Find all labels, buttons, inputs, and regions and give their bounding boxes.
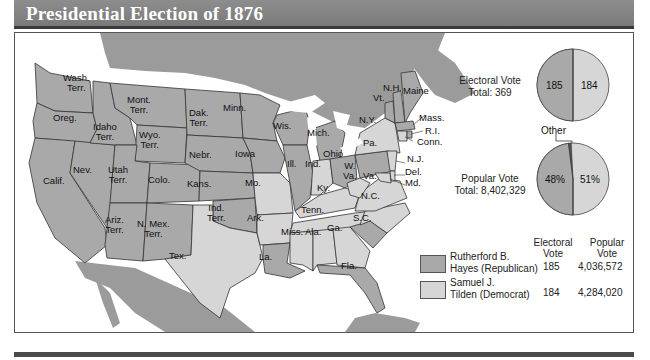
label-sc: S.C. [353,213,371,223]
legend-hayes-electoral: 185 [543,261,560,272]
state-mass [395,121,415,131]
state-conn [397,131,407,141]
legend-hayes-popular: 4,036,572 [578,261,623,272]
label-mo: Mo. [245,178,261,188]
legend-hayes-name: Rutherford B.Hayes (Republican) [450,251,538,275]
label-oreg: Oreg. [53,113,77,123]
label-tenn: Tenn. [301,205,324,215]
legend-tilden-name: Samuel J.Tilden (Democrat) [450,277,530,301]
label-mont: Mont.Terr. [127,95,151,115]
label-ark: Ark. [247,213,264,223]
label-mich: Mich. [307,128,330,138]
state-ri [407,131,412,138]
label-pa: Pa. [363,138,377,148]
state-minn [240,93,280,141]
label-ky: Ky. [317,183,330,193]
label-la: La. [259,252,272,262]
page-title: Presidential Election of 1876 [14,0,634,25]
label-iowa: Iowa [235,149,255,159]
label-wash: Wash.Terr. [63,73,90,93]
state-fla [317,265,385,313]
label-ri: R.I. [425,126,440,136]
label-del: Del. [405,167,422,177]
label-ga: Ga. [327,223,342,233]
label-nh: N.H. [383,83,402,93]
label-mass: Mass. [419,113,444,123]
label-calif: Calif. [43,176,65,186]
label-colo: Colo. [148,175,170,185]
label-ohio: Ohio [323,149,343,159]
electoral-vote-label: Electoral VoteTotal: 369 [445,75,535,99]
label-tex: Tex. [169,251,186,261]
label-wva: W.Va. [343,161,357,181]
label-idaho: IdahoTerr. [93,122,117,142]
label-ind-terr: Ind.Terr. [207,203,225,223]
label-nmex: N. Mex.Terr. [137,219,170,239]
label-ill: Ill. [287,159,297,169]
bottom-rule [14,352,634,357]
label-kans: Kans. [187,179,211,189]
state-miss [290,231,313,271]
map-frame: Wash.Terr. Oreg. Calif. Nev. IdahoTerr. … [14,32,634,333]
cuba-region [345,313,420,332]
label-nc: N.C. [361,191,380,201]
title-bar: Presidential Election of 1876 [14,0,634,29]
label-va: Va. [363,171,377,181]
label-utah: UtahTerr. [108,165,128,185]
label-wis: Wis. [273,121,291,131]
label-dak: Dak.Terr. [189,108,209,128]
label-ala: Ala. [305,227,321,237]
popular-hayes-value: 48% [545,174,565,185]
legend-tilden-popular: 4,284,020 [578,287,623,298]
label-conn: Conn. [417,137,442,147]
electoral-hayes-value: 185 [546,80,563,91]
popular-tilden-value: 51% [580,174,600,185]
label-nebr: Nebr. [189,150,212,160]
popular-vote-label: Popular VoteTotal: 8,402,329 [435,173,545,197]
label-ny: N.Y. [359,115,376,125]
legend-swatch-republican [420,255,446,273]
label-miss: Miss. [281,227,303,237]
legend-swatch-democrat [420,281,446,299]
label-nj: N.J. [407,154,424,164]
electoral-tilden-value: 184 [581,80,598,91]
legend-popular-header: PopularVote [582,237,632,259]
label-minn: Minn. [223,103,246,113]
label-fla: Fla. [341,261,357,271]
label-ind: Ind. [305,159,321,169]
legend-tilden-electoral: 184 [543,287,560,298]
label-ariz: Ariz.Terr. [105,215,124,235]
label-vt: Vt. [373,93,385,103]
label-nev: Nev. [73,165,92,175]
label-wyo: Wyo.Terr. [139,130,161,150]
label-maine: Maine [403,86,429,96]
label-md: Md. [405,178,421,188]
